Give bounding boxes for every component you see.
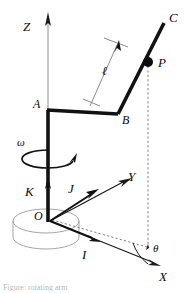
point-label-c: C: [169, 11, 178, 24]
unit-vector-label-i: I: [82, 248, 86, 261]
mechanism-diagram-svg: [0, 0, 187, 293]
figure-caption: Figure: rotating arm: [3, 283, 123, 291]
unit-vector-label-j-glyph: J: [68, 181, 74, 196]
point-label-p: P: [158, 56, 166, 69]
axis-label-z: Z: [23, 20, 30, 33]
angular-velocity-label-omega: ω: [17, 137, 25, 148]
theta-arc: [133, 243, 148, 264]
x-axis-arrowhead: [148, 259, 161, 266]
figure-canvas: Z C P ℓ A B ω Y θ X O K J I Figure: rota…: [0, 0, 187, 293]
ell-tick-lower: [83, 99, 100, 106]
unit-vector-label-i-glyph: I: [82, 247, 86, 262]
point-p-marker: [143, 57, 153, 67]
point-label-a: A: [33, 98, 40, 110]
angle-label-theta: θ: [153, 243, 158, 254]
unit-vector-label-k-glyph: K: [25, 184, 34, 199]
unit-vector-label-k: K: [25, 185, 34, 198]
unit-vector-j-arrow: [50, 189, 99, 221]
length-label-ell: ℓ: [102, 65, 107, 77]
axis-label-x: X: [159, 270, 167, 283]
unit-vector-label-j: J: [68, 182, 74, 195]
theta-angle: [133, 243, 149, 264]
dashed-horizontal-ground: [52, 220, 147, 247]
unit-vector-i-arrow: [50, 221, 101, 242]
y-axis: [50, 178, 132, 221]
linkage-bars: [47, 23, 164, 222]
point-label-b: B: [122, 114, 129, 126]
ell-tick-upper: [104, 38, 128, 47]
axis-label-y: Y: [128, 170, 135, 183]
origin-label-o: O: [34, 210, 43, 222]
bar-arm-ab: [47, 110, 118, 114]
projection-lines: [52, 66, 148, 248]
